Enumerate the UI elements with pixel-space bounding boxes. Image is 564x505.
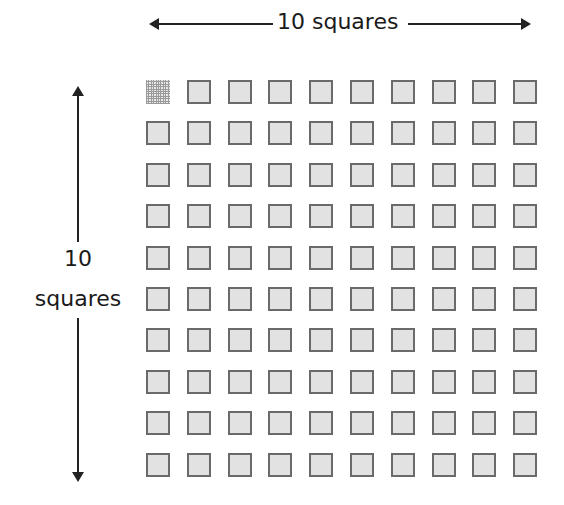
grid-square	[309, 328, 333, 352]
grid-square	[432, 163, 456, 187]
grid-square	[472, 246, 496, 270]
grid-square	[350, 204, 374, 228]
grid-square	[472, 80, 496, 104]
grid-square	[146, 246, 170, 270]
grid-square	[228, 287, 252, 311]
grid-square	[432, 246, 456, 270]
grid-square	[472, 328, 496, 352]
grid-square	[391, 163, 415, 187]
grid-square	[350, 370, 374, 394]
grid-square	[472, 287, 496, 311]
grid-square	[391, 411, 415, 435]
grid-square	[309, 121, 333, 145]
grid-square	[391, 328, 415, 352]
grid-square	[391, 453, 415, 477]
grid-square	[513, 121, 537, 145]
grid-square	[513, 411, 537, 435]
grid-square	[513, 453, 537, 477]
grid-square	[432, 370, 456, 394]
grid-square	[187, 121, 211, 145]
grid-square	[228, 246, 252, 270]
left-label-number: 10	[0, 245, 156, 273]
grid-square	[513, 328, 537, 352]
grid-square	[268, 246, 292, 270]
grid-square	[472, 411, 496, 435]
grid-square	[472, 121, 496, 145]
grid-square	[391, 204, 415, 228]
grid-square	[228, 453, 252, 477]
grid-square	[228, 121, 252, 145]
grid-square	[187, 453, 211, 477]
top-label-text: 10 squares	[277, 8, 398, 36]
grid-square	[268, 80, 292, 104]
grid-square	[350, 411, 374, 435]
grid-square	[350, 163, 374, 187]
grid-square	[268, 370, 292, 394]
grid-square	[309, 80, 333, 104]
left-arrow-line-bottom	[77, 318, 79, 474]
grid-square	[146, 328, 170, 352]
grid-square	[228, 80, 252, 104]
grid-square	[309, 411, 333, 435]
grid-square	[146, 121, 170, 145]
grid-square	[228, 370, 252, 394]
grid-square	[350, 453, 374, 477]
grid-square	[472, 163, 496, 187]
grid-square	[187, 204, 211, 228]
grid-square	[391, 121, 415, 145]
grid-square	[187, 370, 211, 394]
grid-square	[146, 453, 170, 477]
grid-square	[513, 370, 537, 394]
grid-square	[350, 328, 374, 352]
grid-square	[472, 370, 496, 394]
grid-square	[268, 287, 292, 311]
right-arrow-icon	[521, 18, 531, 30]
grid-square	[187, 287, 211, 311]
grid-square	[513, 80, 537, 104]
grid-square	[432, 121, 456, 145]
grid-square	[391, 246, 415, 270]
grid-square	[146, 204, 170, 228]
grid-square	[187, 163, 211, 187]
grid-square	[187, 80, 211, 104]
grid-square	[187, 328, 211, 352]
left-arrow-line-top	[77, 94, 79, 242]
grid-square	[309, 246, 333, 270]
grid-square	[432, 411, 456, 435]
grid-square	[268, 453, 292, 477]
grid-square	[309, 204, 333, 228]
left-label-word: squares	[0, 285, 156, 313]
grid-square	[513, 163, 537, 187]
grid-square	[391, 80, 415, 104]
grid-square	[350, 246, 374, 270]
grid-square	[472, 204, 496, 228]
grid-square	[513, 204, 537, 228]
grid-square	[350, 287, 374, 311]
grid-square	[268, 204, 292, 228]
grid-square	[391, 287, 415, 311]
grid-square	[146, 163, 170, 187]
grid-square	[432, 328, 456, 352]
grid-square	[268, 163, 292, 187]
grid-square	[309, 163, 333, 187]
grid-square	[228, 328, 252, 352]
top-arrow-line-right	[408, 23, 523, 25]
grid-square	[309, 287, 333, 311]
grid-square	[350, 121, 374, 145]
grid-square	[146, 287, 170, 311]
grid-square	[187, 411, 211, 435]
grid-square	[513, 246, 537, 270]
down-arrow-icon	[72, 472, 84, 482]
grid-square	[432, 80, 456, 104]
grid-square	[350, 80, 374, 104]
grid-square	[513, 287, 537, 311]
grid-square	[432, 453, 456, 477]
grid-square	[146, 370, 170, 394]
grid-square	[268, 411, 292, 435]
subdivided-square	[146, 80, 170, 104]
grid-square	[228, 204, 252, 228]
left-dimension-label: 10 squares	[0, 0, 150, 505]
grid-square	[268, 121, 292, 145]
grid-square	[391, 370, 415, 394]
grid-square	[187, 246, 211, 270]
